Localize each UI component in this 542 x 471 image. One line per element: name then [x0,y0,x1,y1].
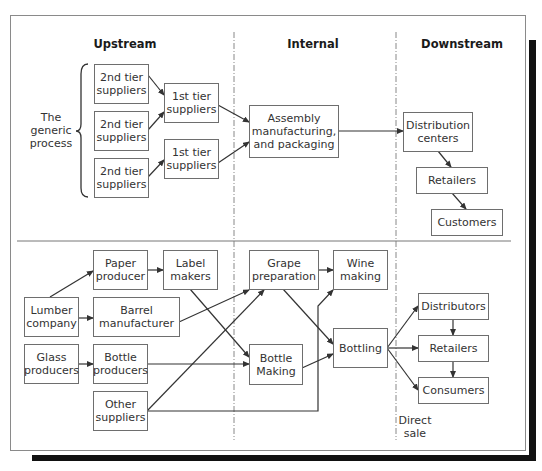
distribution-centers-box: Distribution centers [403,112,473,152]
bottling-box: Bottling [333,328,388,368]
second-tier-suppliers-1: 2nd tier suppliers [94,64,149,104]
second-tier-suppliers-3: 2nd tier suppliers [94,158,149,198]
label-makers-box: Label makers [163,250,218,290]
wine-making-box: Wine making [333,250,388,290]
paper-producer-box: Paper producer [93,250,148,290]
lumber-company-box: Lumber company [24,297,79,337]
grape-preparation-box: Grape preparation [249,250,319,290]
first-tier-suppliers-2: 1st tier suppliers [164,139,219,179]
bottle-making-box: Bottle Making [249,344,303,385]
header-internal: Internal [287,37,338,51]
glass-producers-box: Glass producers [24,344,79,384]
header-downstream: Downstream [421,37,503,51]
first-tier-suppliers-1: 1st tier suppliers [164,83,219,123]
generic-process-label: The generic process [26,111,76,150]
brace-icon [76,64,88,197]
customers-box: Customers [431,209,503,236]
consumers-box: Consumers [418,377,489,404]
retailers-box: Retailers [416,167,488,194]
retailers-box-wine: Retailers [418,335,489,362]
header-upstream: Upstream [93,37,156,51]
barrel-manufacturer-box: Barrel manufacturer [93,297,180,337]
assembly-box: Assembly manufacturing, and packaging [249,105,339,158]
other-suppliers-box: Other suppliers [93,391,148,431]
distributors-box: Distributors [418,293,489,320]
direct-sale-label: Direct sale [398,414,432,440]
second-tier-suppliers-2: 2nd tier suppliers [94,111,149,151]
bottle-producers-box: Bottle producers [93,344,148,384]
